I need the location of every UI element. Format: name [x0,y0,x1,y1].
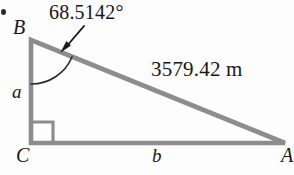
side-label-b: b [152,146,162,165]
triangle-outline [31,40,285,143]
angle-arc-B [31,57,72,84]
triangle-figure: 68.5142° 3579.42 m B C A a b [0,0,294,175]
vertex-label-a: A [281,145,293,165]
hypotenuse-length-label: 3579.42 m [151,59,243,80]
vertex-label-b: B [13,17,25,37]
right-angle-marker [33,122,53,142]
side-label-a: a [12,82,22,101]
vertex-label-c: C [16,145,29,165]
triangle-drawing [0,0,294,175]
angle-measure-label: 68.5142° [49,2,124,22]
